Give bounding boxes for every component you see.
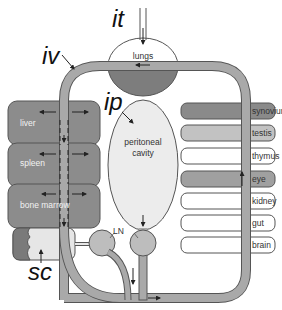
iv-pointer [62,55,74,69]
lymph-node-label: LN [113,226,124,236]
testis-label: testis [252,128,272,138]
biodistribution-diagram: it iv ip sc lungs peritoneal cavity LN l… [0,0,282,310]
lymph-node-2 [130,230,156,256]
lymph-nodes [89,228,156,300]
peritoneal-label-line1: peritoneal [124,137,161,147]
lungs-label: lungs [133,51,153,61]
spleen-label: spleen [20,158,45,168]
bone-marrow-label: bone marrow [20,200,70,210]
synovium-label: synovium [252,106,282,116]
gut-label: gut [252,218,264,228]
thymus-label: thymus [252,151,279,161]
route-label-ip: ip [104,88,123,115]
route-label-sc: sc [28,258,52,285]
kidney-label: kidney [252,196,277,206]
peritoneal-cavity [108,100,178,230]
liver-label: liver [20,118,36,128]
peritoneal-label-line2: cavity [132,148,154,158]
route-label-it: it [112,5,125,32]
subcutaneous-tissue [13,228,90,260]
eye-label: eye [252,174,266,184]
route-label-iv: iv [42,42,61,69]
brain-label: brain [252,240,271,250]
